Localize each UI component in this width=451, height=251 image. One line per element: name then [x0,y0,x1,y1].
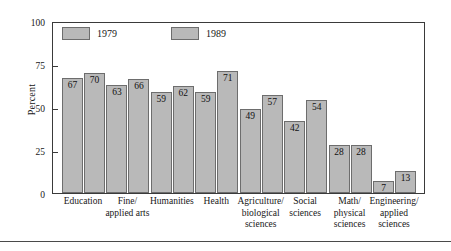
bar-1979[interactable]: 67 [62,78,83,193]
bar-group: 6770 [62,23,106,193]
bar-group: 713 [373,23,417,193]
bar-1979[interactable]: 59 [151,92,172,193]
bar-value-label: 71 [218,74,237,84]
bar-1979[interactable]: 63 [106,85,127,193]
bar-chart-figure: Percent 1979 1989 0255075100 67706366596… [0,0,451,251]
plot-area: 1979 1989 0255075100 6770636659625971495… [52,22,425,194]
y-axis-label: Percent [26,60,37,140]
y-tick-label: 50 [19,104,45,114]
bar-value-label: 28 [352,148,371,158]
bar-group: 6366 [106,23,150,193]
bar-1979[interactable]: 42 [284,121,305,193]
bar-1979[interactable]: 28 [329,145,350,193]
bar-1989[interactable]: 13 [395,171,416,193]
bar-1989[interactable]: 70 [84,73,105,193]
bar-group: 5962 [151,23,195,193]
bar-value-label: 13 [396,174,415,184]
bar-value-label: 59 [196,95,215,105]
bar-1989[interactable]: 62 [173,86,194,193]
bar-value-label: 7 [374,184,393,194]
bar-1989[interactable]: 71 [217,71,238,193]
bar-value-label: 63 [107,88,126,98]
bar-1989[interactable]: 57 [262,95,283,193]
y-tick-label: 100 [19,18,45,28]
bar-1979[interactable]: 59 [195,92,216,193]
x-category-label: Engineering/appliedsciences [354,196,434,231]
bar-value-label: 70 [85,76,104,86]
bar-value-label: 57 [263,98,282,108]
bar-value-label: 54 [307,103,326,113]
bottom-divider [0,241,451,242]
y-tick-label: 0 [19,190,45,200]
bar-group: 4957 [240,23,284,193]
bar-value-label: 49 [241,112,260,122]
bar-1989[interactable]: 66 [128,79,149,193]
bar-1989[interactable]: 54 [306,100,327,193]
y-tick-label: 25 [19,147,45,157]
x-axis-category-labels: EducationFine/applied artsHumanitiesHeal… [52,196,425,242]
bar-1979[interactable]: 49 [240,109,261,193]
y-tick-label: 75 [19,61,45,71]
bar-value-label: 66 [129,82,148,92]
bar-value-label: 59 [152,95,171,105]
bar-series-container: 6770636659625971495742542828713 [53,23,424,193]
bar-value-label: 42 [285,124,304,134]
bar-1989[interactable]: 28 [351,145,372,193]
bar-value-label: 28 [330,148,349,158]
bar-1979[interactable]: 7 [373,181,394,193]
bar-value-label: 62 [174,89,193,99]
bar-group: 5971 [195,23,239,193]
bar-value-label: 67 [63,81,82,91]
bar-group: 2828 [329,23,373,193]
bar-group: 4254 [284,23,328,193]
